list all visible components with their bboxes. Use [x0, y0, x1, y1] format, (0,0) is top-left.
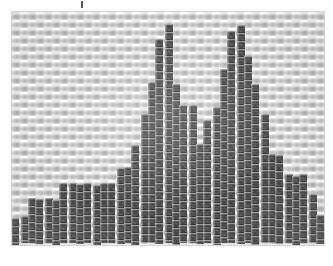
stitch-column — [59, 183, 67, 243]
stitch-column — [316, 215, 324, 244]
stitched-histogram — [12, 12, 324, 245]
stitch-column — [35, 199, 43, 244]
stitch-column — [275, 155, 283, 244]
stitch-column — [155, 39, 163, 244]
stitch-column — [179, 105, 187, 243]
embroidery-picture-frame — [11, 11, 325, 246]
screenshot-stage — [0, 0, 333, 266]
stitch-column — [299, 174, 307, 243]
stitch-column — [107, 183, 115, 243]
stitch-column — [131, 145, 139, 245]
stitch-column — [11, 218, 19, 245]
stitch-column — [227, 31, 235, 243]
stray-ink-mark — [81, 1, 83, 8]
stitch-column — [83, 183, 91, 243]
stitch-column — [203, 120, 211, 243]
stitch-column — [251, 84, 259, 245]
